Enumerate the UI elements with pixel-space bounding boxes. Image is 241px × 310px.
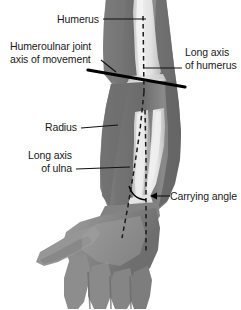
anatomical-figure: Humerus Humeroulnar joint axis of moveme… bbox=[0, 0, 241, 310]
label-carrying-angle: Carrying angle bbox=[170, 190, 237, 202]
label-humerus: Humerus bbox=[57, 13, 99, 25]
label-long-axis-of-ulna-line2: of ulna bbox=[41, 162, 72, 174]
label-humeroulnar-joint-line1: Humeroulnar joint bbox=[10, 40, 91, 52]
label-humeroulnar-joint-line2: axis of movement bbox=[10, 53, 91, 65]
label-long-axis-of-ulna-line1: Long axis bbox=[28, 149, 72, 161]
label-radius: Radius bbox=[45, 121, 77, 133]
finger-middle bbox=[88, 262, 112, 309]
carrying-angle-illustration: Humerus Humeroulnar joint axis of moveme… bbox=[0, 0, 241, 310]
label-long-axis-of-humerus-line2: of humerus bbox=[185, 59, 237, 71]
label-long-axis-of-humerus-line1: Long axis bbox=[185, 46, 229, 58]
